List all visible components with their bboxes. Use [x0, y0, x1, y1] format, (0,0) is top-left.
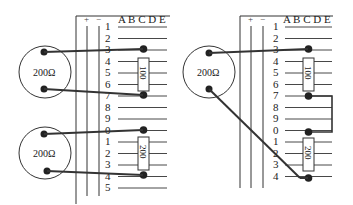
board-frame [240, 16, 333, 188]
left-breadboard: + − A B C D E 1 2 3 4 5 6 7 8 9 0 1 2 3 … [76, 13, 170, 204]
meter-label: 200Ω [33, 67, 55, 78]
row-labels: 1 2 3 4 5 6 7 8 9 0 1 2 3 4 5 [105, 20, 111, 193]
row-number: 0 [105, 124, 111, 136]
row-number: 1 [273, 135, 279, 147]
row-number: 3 [273, 158, 279, 170]
minus-label: − [260, 14, 265, 24]
row-number: 6 [105, 78, 111, 90]
plus-label: + [84, 14, 89, 24]
row-number: 6 [273, 78, 279, 90]
row-number: 5 [105, 66, 111, 78]
row-number: 2 [105, 32, 111, 44]
row-number: 8 [105, 101, 111, 113]
contact-dot [305, 92, 313, 100]
row-number: 7 [273, 89, 279, 101]
row-number: 2 [105, 147, 111, 159]
meter-label: 200Ω [33, 148, 55, 159]
row-number: 1 [105, 135, 111, 147]
row-number: 4 [273, 55, 279, 67]
board-frame [76, 16, 170, 204]
row-number: 8 [273, 101, 279, 113]
meter-label: 200Ω [197, 67, 219, 78]
row-number: 7 [105, 89, 111, 101]
row-number: 5 [273, 66, 279, 78]
column-header: A B C D E [283, 13, 331, 25]
jumper-wire [312, 96, 332, 132]
row-number: 4 [105, 55, 111, 67]
resistor-100-label: 100 [303, 66, 313, 80]
right-breadboard: + − A B C D E 1 2 3 4 5 6 7 8 9 0 1 2 3 … [240, 13, 333, 188]
circuit-diagram: + − A B C D E 1 2 3 4 5 6 7 8 9 0 1 2 3 … [0, 0, 353, 205]
resistor-200-label: 200 [138, 145, 148, 159]
minus-label: − [96, 14, 101, 24]
row-number: 9 [105, 112, 111, 124]
row-number: 5 [105, 181, 111, 193]
plus-label: + [248, 14, 253, 24]
test-lead [209, 89, 300, 178]
row-number: 2 [273, 32, 279, 44]
row-number: 4 [105, 170, 111, 182]
resistor-200-label: 200 [303, 146, 313, 160]
row-number: 0 [273, 124, 279, 136]
resistor-100-label: 100 [138, 66, 148, 80]
column-header: A B C D E [118, 13, 166, 25]
row-number: 9 [273, 112, 279, 124]
row-number: 3 [105, 158, 111, 170]
contact-dot [305, 128, 313, 136]
row-number: 3 [273, 43, 279, 55]
row-number: 1 [105, 20, 111, 32]
row-number: 1 [273, 20, 279, 32]
row-number: 4 [273, 170, 279, 182]
